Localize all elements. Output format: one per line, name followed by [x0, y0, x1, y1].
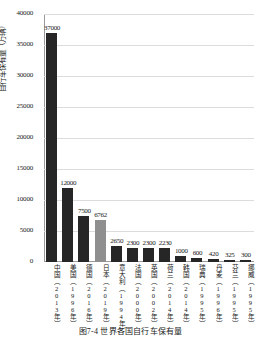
bar-slot: 6762 — [93, 14, 109, 262]
bar[interactable] — [191, 258, 202, 262]
bar-slot: 2300 — [141, 14, 157, 262]
bar[interactable] — [111, 246, 122, 262]
bar-slot: 37000 — [44, 14, 60, 262]
bar-slot: 325 — [222, 14, 238, 262]
y-axis-tick-label: 40000 — [0, 10, 33, 17]
bar[interactable] — [62, 188, 73, 262]
bar[interactable] — [143, 248, 154, 262]
bar[interactable] — [208, 259, 219, 262]
bar-slot: 2300 — [125, 14, 141, 262]
bar-slot: 300 — [238, 14, 254, 262]
x-axis-tick-label: 美国（1996年） — [60, 264, 76, 327]
x-axis-tick-label: 英国（2002年） — [141, 264, 157, 327]
y-axis-tick-label: 25000 — [0, 103, 33, 110]
bar-slot: 12000 — [60, 14, 76, 262]
bar-series: 3700012000750067622650230023002230100060… — [44, 14, 254, 262]
bar[interactable] — [240, 260, 251, 262]
x-axis-tick-label: 芬兰（1995年） — [222, 264, 238, 327]
y-axis-tick-label: 15000 — [0, 165, 33, 172]
bar-slot: 7500 — [76, 14, 92, 262]
bar-value-label: 300 — [231, 251, 261, 259]
bar-slot: 600 — [189, 14, 205, 262]
bar-slot: 2650 — [109, 14, 125, 262]
x-axis-tick-label: 丹麦（1996年） — [206, 264, 222, 327]
bar[interactable] — [78, 216, 89, 263]
x-axis-tick-label: 日本（2019年） — [93, 264, 109, 327]
bar-slot: 1000 — [173, 14, 189, 262]
bar-slot: 420 — [206, 14, 222, 262]
x-axis-tick-label: 意大利（1994年） — [109, 264, 125, 334]
y-axis-tick-label: 30000 — [0, 72, 33, 79]
x-axis-tick-label: 德国（2016年） — [76, 264, 92, 327]
y-axis-tick-label: 20000 — [0, 134, 33, 141]
y-axis-tick-label: 0 — [0, 258, 33, 265]
bar[interactable] — [224, 260, 235, 262]
x-axis-tick-label: 瑞典（1995年） — [189, 264, 205, 327]
x-axis-tick-labels: 中国（2013年）美国（1996年）德国（2016年）日本（2019年）意大利（… — [44, 264, 254, 324]
x-axis-tick-label: 荷兰（2014年） — [157, 264, 173, 327]
x-axis-tick-label: 法国（2000年） — [125, 264, 141, 327]
x-axis-tick-label: 挪威（1995年） — [238, 264, 254, 327]
bar[interactable] — [127, 248, 138, 262]
y-axis-tick-label: 5000 — [0, 227, 33, 234]
y-axis-tick-label: 35000 — [0, 41, 33, 48]
bar-slot: 2230 — [157, 14, 173, 262]
y-axis-tick-label: 10000 — [0, 196, 33, 203]
bar[interactable] — [46, 33, 57, 262]
figure-caption: 图7-4 世界各国自行车保有量 — [0, 327, 261, 337]
x-axis-tick-label: 中国（2013年） — [44, 264, 60, 327]
x-axis-tick-label: 韩国（2014年） — [173, 264, 189, 327]
figure-container: 自行车保有量（万辆） 40000350003000025000200001500… — [0, 0, 261, 343]
